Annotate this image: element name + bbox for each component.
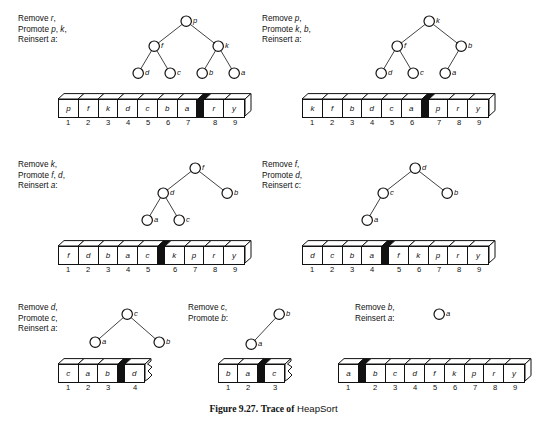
array-cell: c <box>265 365 284 382</box>
array-index-label: 3 <box>342 265 362 274</box>
array-end-cap <box>245 93 254 118</box>
tree-node-label: f <box>202 164 204 172</box>
panel-3-heap-tree: fdbac <box>124 157 246 233</box>
array-strip: pfkdcbary123456789 <box>58 93 257 117</box>
array-index-label: 6 <box>409 265 429 274</box>
array-cell: f <box>79 100 99 117</box>
array-index-label: 2 <box>322 265 342 274</box>
panel-7-heap-tree: a <box>424 303 458 327</box>
array-index-label: 7 <box>429 265 449 274</box>
tree-node-label: k <box>225 42 229 50</box>
array-index-label: 1 <box>58 383 78 392</box>
tree-node-circle <box>90 337 100 347</box>
array-cell: p <box>429 100 449 117</box>
array-index-label: 1 <box>58 265 78 274</box>
array-torn-edge <box>145 358 154 383</box>
array-cell: c <box>386 365 406 382</box>
array-index-label: 2 <box>78 265 98 274</box>
end-cap-face <box>489 94 495 116</box>
tree-node-circle <box>408 68 418 78</box>
tree-node-label: b <box>454 189 458 197</box>
tree-node-label: d <box>170 189 174 197</box>
figure-caption-lead: Trace of <box>261 403 295 414</box>
tree-node-circle <box>424 16 434 26</box>
tree-graphic <box>424 303 458 327</box>
step-label-line: Remove p, <box>262 14 311 25</box>
tree-node-label: a <box>446 310 450 318</box>
tree-graphic <box>78 303 178 355</box>
array-cell: p <box>429 247 449 264</box>
array-cell-marker <box>382 247 389 264</box>
array-index-label: 6 <box>158 118 178 127</box>
array-index-label: 2 <box>78 383 98 392</box>
array-index-label: 9 <box>469 118 489 127</box>
tree-edge <box>255 318 276 340</box>
tree-edge <box>448 51 459 69</box>
array-cell: r <box>204 247 224 264</box>
tree-edge <box>131 318 155 339</box>
panel-5-step-labels: Remove d,Promote c,Reinsert a: <box>18 303 58 335</box>
array-cell: c <box>382 100 402 117</box>
array-cell: y <box>468 247 488 264</box>
tree-graphic <box>352 10 480 86</box>
array-cells: abcdfkpry <box>338 364 525 383</box>
array-cell-marker <box>359 365 366 382</box>
array-index-label <box>118 383 125 392</box>
array-cell: d <box>362 100 382 117</box>
array-index-label <box>358 383 365 392</box>
figure-number: Figure 9.27. <box>209 403 258 414</box>
array-index-label: 3 <box>265 383 285 392</box>
array-index-label: 4 <box>362 118 382 127</box>
tree-edge <box>370 198 381 216</box>
tree-node-circle <box>442 188 452 198</box>
tree-node-circle <box>378 188 388 198</box>
array-cells: fdbackpry <box>58 246 245 265</box>
array-index-label: 6 <box>402 118 422 127</box>
tree-node-circle <box>222 188 232 198</box>
tree-node-circle <box>197 68 207 78</box>
tree-node-circle <box>229 68 239 78</box>
step-label-line: Remove d, <box>18 303 58 314</box>
array-cell: a <box>118 247 138 264</box>
array-index-label: 4 <box>405 383 425 392</box>
array-strip: kfbdcapry123456789 <box>302 93 501 117</box>
step-label-line: Reinsert a: <box>355 314 395 325</box>
panel-2-heap-tree: kfbdca <box>352 10 480 86</box>
tree-node-circle <box>142 215 152 225</box>
array-strip: abcdfkpry123456789 <box>338 358 537 382</box>
array-index-row: 123456789 <box>338 383 525 392</box>
torn-edge-path <box>285 359 292 381</box>
array-cell: r <box>448 100 468 117</box>
array-cell: a <box>178 100 198 117</box>
array-index-row: 123456789 <box>58 265 245 274</box>
array-index-label <box>382 265 389 274</box>
array-cell: f <box>59 247 79 264</box>
array-index-label: 3 <box>385 383 405 392</box>
tree-edge <box>221 51 232 69</box>
tree-edge <box>141 51 152 69</box>
array-index-label <box>158 265 165 274</box>
panel-1-array: pfkdcbary123456789 <box>58 93 257 117</box>
array-index-label: 9 <box>225 118 245 127</box>
array-strip: cabd1234 <box>58 358 157 382</box>
array-index-label: 4 <box>125 383 145 392</box>
array-strip: bac123 <box>218 358 297 382</box>
tree-node-circle <box>181 16 191 26</box>
array-index-label: 7 <box>465 383 485 392</box>
step-label-line: Remove k, <box>18 160 65 171</box>
tree-node-label: a <box>154 216 158 224</box>
tree-node-circle <box>392 41 402 51</box>
array-cell: y <box>224 247 244 264</box>
array-cell: a <box>79 365 99 382</box>
step-label-line: Reinsert a: <box>18 35 67 46</box>
panel-4-array: dcbafkpry123456789 <box>302 240 501 264</box>
array-strip: fdbackpry123456789 <box>58 240 257 264</box>
tree-node-circle <box>376 68 386 78</box>
array-index-label: 8 <box>205 118 225 127</box>
tree-node-label: d <box>422 164 426 172</box>
array-index-label <box>258 383 265 392</box>
tree-graphic <box>115 10 253 86</box>
array-index-label: 8 <box>205 265 225 274</box>
array-index-label: 1 <box>58 118 78 127</box>
array-cells: pfkdcbary <box>58 99 245 118</box>
